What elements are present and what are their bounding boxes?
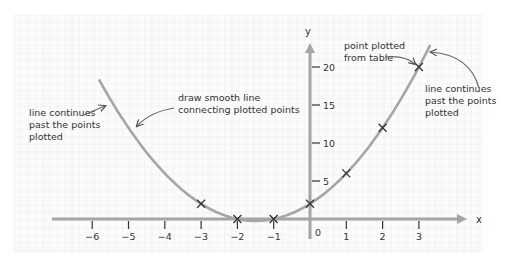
annotation-right: line continues: [425, 83, 491, 94]
grid-background: [14, 15, 483, 253]
x-tick-label: −4: [158, 231, 172, 242]
x-tick-label: 1: [343, 231, 349, 242]
x-tick-label: −3: [194, 231, 208, 242]
x-tick-label: −6: [85, 231, 99, 242]
grid-area: [14, 15, 483, 253]
origin-label: 0: [315, 227, 321, 238]
annotation-middle: draw smooth line: [178, 92, 260, 103]
x-tick-label: −5: [121, 231, 135, 242]
y-tick-label: 20: [323, 62, 335, 73]
x-tick-label: 3: [416, 231, 422, 242]
y-tick-label: 10: [323, 138, 335, 149]
x-tick-label: −2: [230, 231, 244, 242]
annotation-left: line continues: [29, 107, 95, 118]
annotation-middle: connecting plotted points: [178, 104, 300, 115]
annotation-right: past the points: [425, 95, 496, 106]
quadratic-graph: −6−5−4−3−2−11230x 5101520y line continue…: [0, 0, 505, 272]
y-tick-label: 15: [323, 100, 335, 111]
x-tick-label: −1: [267, 231, 281, 242]
y-axis-label: y: [305, 26, 311, 37]
x-tick-label: 2: [380, 231, 386, 242]
x-axis-label: x: [476, 214, 482, 225]
annotation-left: past the points: [29, 119, 100, 130]
annotation-left: plotted: [29, 131, 63, 142]
annotation-right: plotted: [425, 107, 459, 118]
y-tick-label: 5: [323, 176, 329, 187]
annotation-top: point plotted: [344, 40, 405, 51]
